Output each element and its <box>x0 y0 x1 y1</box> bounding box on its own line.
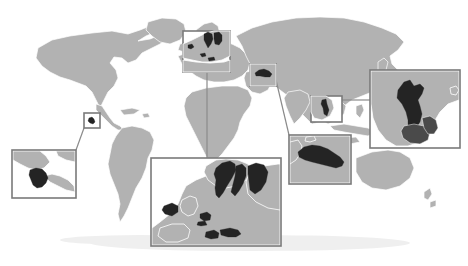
laos-locator[interactable] <box>311 96 342 122</box>
costa-rica-inset[interactable] <box>12 150 76 198</box>
inset-eu-iberia <box>158 224 190 242</box>
costa-rica-locator[interactable] <box>84 113 100 128</box>
map-figure <box>0 0 468 266</box>
laos-large-inset[interactable] <box>370 70 460 148</box>
turkmenistan-locator[interactable] <box>250 64 276 86</box>
scandinavia-locator[interactable] <box>183 31 230 72</box>
turkmenistan-large-inset[interactable] <box>289 135 351 184</box>
europe-large-inset[interactable] <box>151 158 281 246</box>
map-canvas <box>0 0 468 266</box>
